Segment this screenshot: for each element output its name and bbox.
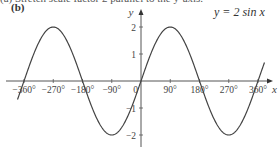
x-tick-label: −270° <box>42 85 66 95</box>
x-tick-label: 270° <box>220 85 238 95</box>
x-tick-label: −180° <box>71 85 95 95</box>
y-axis-label: y <box>128 6 134 18</box>
y-tick-label: −2 <box>126 131 136 141</box>
x-tick-label: 90° <box>164 85 178 95</box>
sine-graph: −360°−270°−180°−90°90°180°270°360°0−2−11… <box>0 0 278 153</box>
x-axis-label: x <box>271 83 277 95</box>
x-tick-label: −90° <box>102 85 121 95</box>
x-tick-label: 360° <box>249 85 267 95</box>
y-tick-label: 2 <box>131 23 136 33</box>
x-tick-label: −360° <box>12 85 36 95</box>
y-axis-arrow-icon <box>139 9 144 15</box>
y-tick-label: 1 <box>131 50 136 60</box>
x-tick-label: 180° <box>190 85 208 95</box>
